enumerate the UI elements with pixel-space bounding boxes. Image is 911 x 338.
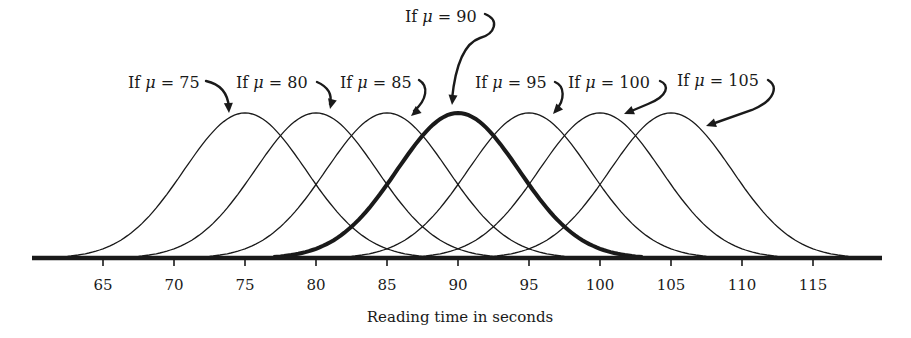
annotation-mu-100: If μ = 100: [568, 73, 650, 92]
tick-label: 105: [657, 276, 686, 294]
annotation-mu-90: If μ = 90: [405, 7, 477, 26]
tick-label: 90: [448, 276, 467, 294]
arrowhead-icon: [706, 118, 717, 126]
arrowhead-icon: [224, 103, 233, 113]
annotation-mu-75: If μ = 75: [128, 73, 200, 92]
mean-annotations: If μ = 75If μ = 80If μ = 85If μ = 90If μ…: [128, 7, 759, 92]
annotation-mu-85: If μ = 85: [340, 73, 412, 92]
arrowhead-icon: [449, 95, 458, 105]
arrowhead-icon: [411, 106, 422, 116]
annotation-mu-105: If μ = 105: [677, 71, 759, 90]
tick-label: 100: [586, 276, 615, 294]
tick-label: 65: [93, 276, 112, 294]
normal-curves-chart: 65707580859095100105110115 Reading time …: [0, 0, 911, 338]
x-axis: 65707580859095100105110115: [32, 258, 882, 294]
x-axis-title: Reading time in seconds: [367, 308, 553, 326]
annotation-mu-80: If μ = 80: [236, 73, 308, 92]
tick-label: 80: [306, 276, 325, 294]
arrowhead-icon: [328, 98, 337, 109]
tick-label: 95: [519, 276, 538, 294]
tick-label: 75: [235, 276, 254, 294]
arrowhead-icon: [553, 104, 563, 114]
tick-label: 115: [799, 276, 828, 294]
tick-label: 110: [728, 276, 757, 294]
distribution-curves: [60, 113, 855, 257]
annotation-mu-95: If μ = 95: [475, 73, 547, 92]
x-axis-ticks: 65707580859095100105110115: [93, 258, 827, 294]
tick-label: 85: [377, 276, 396, 294]
tick-label: 70: [164, 276, 183, 294]
